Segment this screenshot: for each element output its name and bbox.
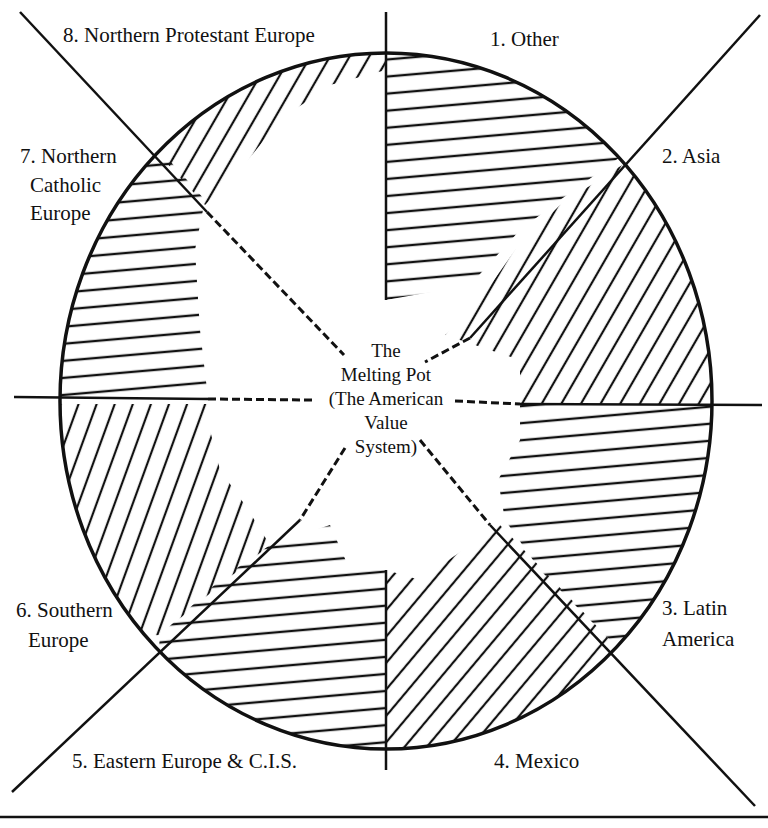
- label-eastern-europe: 5. Eastern Europe & C.I.S.: [72, 749, 297, 773]
- label-latin-america-2: America: [662, 627, 735, 651]
- label-northern-catholic-3: Europe: [30, 201, 91, 225]
- melting-pot-diagram: The Melting Pot (The American Value Syst…: [0, 0, 768, 828]
- spoke-ne: [425, 338, 470, 362]
- center-line-3: (The American: [329, 388, 444, 410]
- spoke-w: [208, 399, 312, 400]
- label-asia: 2. Asia: [662, 144, 721, 168]
- label-northern-catholic-1: 7. Northern: [20, 144, 117, 168]
- center-line-4: Value: [364, 412, 407, 433]
- label-mexico: 4. Mexico: [494, 749, 579, 773]
- label-southern-europe-1: 6. Southern: [16, 598, 113, 622]
- label-northern-protestant: 8. Northern Protestant Europe: [63, 23, 315, 47]
- divider-horizontal-right: [520, 404, 762, 405]
- spoke-sw: [300, 448, 345, 520]
- label-other: 1. Other: [490, 27, 559, 51]
- spoke-se: [420, 440, 490, 525]
- spoke-nw: [207, 212, 344, 355]
- label-northern-catholic-2: Catholic: [30, 173, 101, 197]
- label-latin-america-1: 3. Latin: [662, 596, 728, 620]
- wedge-northern-protestant: [150, 40, 386, 205]
- center-line-1: The: [371, 340, 401, 361]
- center-line-2: Melting Pot: [341, 364, 432, 385]
- center-label: The Melting Pot (The American Value Syst…: [329, 340, 444, 458]
- spoke-e: [455, 401, 520, 404]
- label-southern-europe-2: Europe: [28, 628, 89, 652]
- center-line-5: System): [355, 436, 417, 458]
